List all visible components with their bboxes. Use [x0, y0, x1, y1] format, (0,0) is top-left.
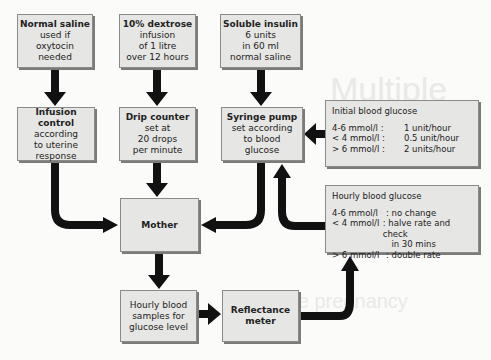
hourly-glucose-row: < 4 mmol/l : halve rate and check: [332, 218, 472, 239]
hourly-samples-box: Hourly blood samples for glucose level: [120, 290, 197, 342]
initial-glucose-row: 4-6 mmol/l : 1 unit/hour: [332, 123, 472, 134]
glucose-range: [332, 239, 386, 250]
rate-action: in 30 mins: [386, 239, 436, 250]
insulin-line: 6 units: [245, 30, 276, 41]
drip-counter-line: 20 drops: [138, 134, 177, 145]
glucose-range: 4-6 mmol/l: [332, 208, 386, 219]
infusion-control-line: according: [34, 129, 78, 140]
drip-counter-line: per minute: [133, 145, 183, 156]
hourly-samples-line: Hourly blood: [130, 300, 187, 311]
drip-counter-box: Drip counter set at 20 drops per minute: [119, 107, 196, 161]
hourly-glucose-row: 4-6 mmol/l : no change: [332, 208, 472, 219]
insulin-line: normal saline: [230, 52, 291, 63]
glucose-range: < 4 mmol/l :: [332, 133, 404, 144]
rate-action: : halve rate and check: [383, 218, 472, 239]
drip-counter-line: set at: [145, 123, 171, 134]
normal-saline-box: Normal saline used if oxytocin needed: [17, 14, 93, 68]
syringe-pump-line: to blood: [244, 134, 281, 145]
glucose-range: > 6 mmol/l :: [332, 144, 404, 155]
insulin-box: Soluble insulin 6 units in 60 ml normal …: [220, 14, 301, 68]
initial-glucose-panel: Initial blood glucose 4-6 mmol/l : 1 uni…: [325, 100, 479, 167]
hourly-glucose-row: > 6 mmol/l : double rate: [332, 250, 472, 261]
hourly-glucose-row: in 30 mins: [332, 239, 472, 250]
hourly-samples-line: glucose level: [129, 322, 188, 333]
normal-saline-line: used if oxytocin: [20, 30, 90, 52]
mother-title: Mother: [141, 220, 177, 231]
infusion-control-title: Infusion control: [20, 107, 92, 129]
dextrose-title: 10% dextrose: [123, 19, 192, 30]
reflectance-meter-line: meter: [245, 316, 275, 327]
drip-counter-title: Drip counter: [126, 112, 190, 123]
syringe-pump-title: Syringe pump: [227, 112, 298, 123]
dextrose-box: 10% dextrose infusion of 1 litre over 12…: [119, 14, 196, 68]
normal-saline-line: needed: [38, 52, 72, 63]
hourly-glucose-title: Hourly blood glucose: [332, 191, 472, 202]
syringe-pump-box: Syringe pump set according to blood gluc…: [221, 107, 303, 161]
initial-glucose-row: > 6 mmol/l : 2 units/hour: [332, 144, 472, 155]
rate-action: : no change: [386, 208, 436, 219]
normal-saline-title: Normal saline: [20, 19, 90, 30]
hourly-samples-line: samples for: [132, 311, 185, 322]
hourly-glucose-panel: Hourly blood glucose 4-6 mmol/l : no cha…: [325, 185, 479, 253]
initial-glucose-title: Initial blood glucose: [332, 106, 472, 117]
mother-box: Mother: [120, 198, 199, 252]
insulin-title: Soluble insulin: [223, 19, 298, 30]
dextrose-line: over 12 hours: [126, 52, 189, 63]
syringe-pump-line: glucose: [245, 145, 280, 156]
infusion-control-box: Infusion control according to uterine re…: [17, 107, 95, 161]
insulin-rate: 1 unit/hour: [404, 123, 451, 134]
syringe-pump-line: set according: [232, 123, 293, 134]
dextrose-line: of 1 litre: [139, 41, 177, 52]
insulin-rate: 0.5 unit/hour: [404, 133, 459, 144]
infusion-control-line: response: [36, 151, 77, 162]
insulin-line: in 60 ml: [242, 41, 279, 52]
initial-glucose-row: < 4 mmol/l : 0.5 unit/hour: [332, 133, 472, 144]
insulin-rate: 2 units/hour: [404, 144, 455, 155]
reflectance-meter-title: Reflectance: [231, 305, 290, 316]
glucose-range: < 4 mmol/l: [332, 218, 383, 239]
infusion-control-line: to uterine: [34, 140, 78, 151]
reflectance-meter-box: Reflectance meter: [222, 290, 299, 342]
glucose-range: 4-6 mmol/l :: [332, 123, 404, 134]
dextrose-line: infusion: [140, 30, 175, 41]
rate-action: : double rate: [386, 250, 441, 261]
glucose-range: > 6 mmol/l: [332, 250, 386, 261]
